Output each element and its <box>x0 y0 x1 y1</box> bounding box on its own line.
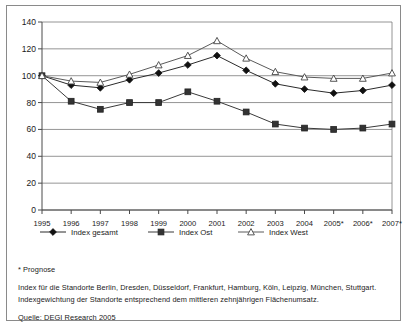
x-tick-label-1999: 1999 <box>150 219 167 228</box>
x-tick-label-2000: 2000 <box>179 219 196 228</box>
y-tick-label-140: 140 <box>22 17 36 27</box>
marker-1998 <box>127 100 133 106</box>
marker-2006f <box>360 125 366 131</box>
x-tick-label-1998: 1998 <box>121 219 138 228</box>
marker-2003 <box>272 68 279 74</box>
marker-2001 <box>214 98 220 104</box>
legend-label: Index gesamt <box>71 228 119 237</box>
marker-2004 <box>302 125 308 131</box>
legend-marker <box>50 229 57 236</box>
x-tick-label-2001: 2001 <box>209 219 226 228</box>
y-tick-label-60: 60 <box>27 124 37 134</box>
y-tick-label-100: 100 <box>22 71 36 81</box>
marker-2007f <box>389 70 396 76</box>
marker-2001 <box>214 37 221 43</box>
series-index-gesamt <box>39 52 396 96</box>
chart-figure: 020406080100120140 199519961997199819992… <box>0 0 408 331</box>
x-tick-label-2003: 2003 <box>267 219 284 228</box>
y-tick-label-40: 40 <box>27 151 37 161</box>
x-tick-label-1995: 1995 <box>34 219 51 228</box>
x-tick-label-2004: 2004 <box>296 219 313 228</box>
marker-2000 <box>185 89 191 95</box>
marker-2001 <box>214 52 221 59</box>
marker-2003 <box>272 80 279 87</box>
marker-2000 <box>184 62 191 69</box>
marker-2007f <box>389 121 395 127</box>
marker-1999 <box>156 100 162 106</box>
marker-2005f <box>330 90 337 97</box>
legend-item-index-gesamt[interactable]: Index gesamt <box>40 228 119 237</box>
y-tick-label-0: 0 <box>31 205 36 215</box>
y-tick-label-120: 120 <box>22 44 36 54</box>
marker-2007f <box>389 82 396 89</box>
marker-2003 <box>272 121 278 127</box>
marker-2002 <box>243 55 250 61</box>
marker-2005f <box>331 127 337 133</box>
x-axis-tick-marks <box>42 210 392 214</box>
footnote-prognose: * Prognose <box>18 264 394 275</box>
chart-notes: * Prognose Index für die Standorte Berli… <box>18 264 394 324</box>
marker-2004 <box>301 86 308 93</box>
marker-2006f <box>359 87 366 94</box>
marker-2002 <box>243 109 249 115</box>
marker-2002 <box>243 67 250 74</box>
gridlines <box>42 22 392 210</box>
data-series-group <box>39 37 396 132</box>
line-path <box>42 56 392 94</box>
index-line-chart: 020406080100120140 199519961997199819992… <box>0 0 408 240</box>
chart-legend: Index gesamtIndex OstIndex West <box>40 228 309 237</box>
x-tick-label-2007*: 2007* <box>382 219 402 228</box>
x-tick-label-1996: 1996 <box>63 219 80 228</box>
note-standorte: Index für die Standorte Berlin, Dresden,… <box>18 282 394 293</box>
chart-plot-area: 020406080100120140 199519961997199819992… <box>0 0 408 240</box>
legend-marker <box>158 229 164 235</box>
legend-label: Index Ost <box>179 228 213 237</box>
marker-1997 <box>97 106 103 112</box>
series-index-west <box>39 37 396 85</box>
y-tick-label-80: 80 <box>27 98 37 108</box>
legend-item-index-west[interactable]: Index West <box>238 228 309 237</box>
line-path <box>42 41 392 83</box>
note-source: Quelle: DEGI Research 2005 <box>18 312 394 323</box>
x-tick-label-1997: 1997 <box>92 219 109 228</box>
x-tick-label-2006*: 2006* <box>353 219 373 228</box>
x-tick-label-2002: 2002 <box>238 219 255 228</box>
y-axis-tick-labels: 020406080100120140 <box>22 17 42 215</box>
note-gewichtung: Indexgewichtung der Standorte entspreche… <box>18 294 394 305</box>
x-axis-tick-labels: 1995199619971998199920002001200220032004… <box>34 219 402 228</box>
plot-frame <box>42 22 392 210</box>
legend-item-index-ost[interactable]: Index Ost <box>148 228 213 237</box>
marker-1996 <box>68 98 74 104</box>
x-tick-label-2005*: 2005* <box>324 219 344 228</box>
marker-2000 <box>184 52 191 58</box>
legend-label: Index West <box>269 228 309 237</box>
y-tick-label-20: 20 <box>27 178 37 188</box>
